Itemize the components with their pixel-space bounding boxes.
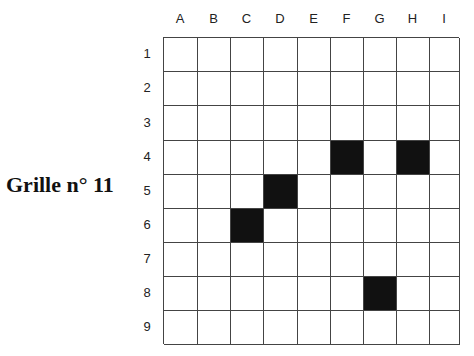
cell-c4[interactable] [231, 141, 264, 175]
cell-a9[interactable] [164, 311, 198, 345]
row-label-1: 1 [140, 46, 154, 61]
cell-c5[interactable] [231, 175, 264, 209]
cell-g2[interactable] [364, 72, 397, 106]
cell-g3[interactable] [364, 106, 397, 141]
column-label-g: G [370, 11, 390, 26]
cell-a4[interactable] [164, 141, 198, 175]
row-label-7: 7 [140, 251, 154, 266]
cell-b8[interactable] [198, 277, 231, 311]
cell-a2[interactable] [164, 72, 198, 106]
cell-e4[interactable] [298, 141, 331, 175]
cell-i9[interactable] [430, 311, 460, 345]
column-label-c: C [237, 11, 257, 26]
grid [163, 37, 459, 344]
cell-c8[interactable] [231, 277, 264, 311]
cell-a8[interactable] [164, 277, 198, 311]
cell-g9[interactable] [364, 311, 397, 345]
cell-a3[interactable] [164, 106, 198, 141]
cell-e2[interactable] [298, 72, 331, 106]
row-label-2: 2 [140, 80, 154, 95]
cell-d9[interactable] [264, 311, 298, 345]
cell-c1[interactable] [231, 38, 264, 72]
cell-g4[interactable] [364, 141, 397, 175]
cell-a6[interactable] [164, 209, 198, 243]
cell-h7[interactable] [397, 243, 430, 277]
row-label-3: 3 [140, 115, 154, 130]
cell-g5[interactable] [364, 175, 397, 209]
cell-i3[interactable] [430, 106, 460, 141]
cell-d5[interactable] [264, 175, 298, 209]
cell-b9[interactable] [198, 311, 231, 345]
cell-f9[interactable] [331, 311, 364, 345]
cell-e8[interactable] [298, 277, 331, 311]
cell-f3[interactable] [331, 106, 364, 141]
cell-i8[interactable] [430, 277, 460, 311]
cell-a1[interactable] [164, 38, 198, 72]
cell-c6[interactable] [231, 209, 264, 243]
cell-d2[interactable] [264, 72, 298, 106]
cell-e7[interactable] [298, 243, 331, 277]
row-label-9: 9 [140, 319, 154, 334]
cell-h1[interactable] [397, 38, 430, 72]
cell-d4[interactable] [264, 141, 298, 175]
cell-c3[interactable] [231, 106, 264, 141]
row-label-8: 8 [140, 285, 154, 300]
cell-c7[interactable] [231, 243, 264, 277]
cell-b4[interactable] [198, 141, 231, 175]
row-label-4: 4 [140, 149, 154, 164]
cell-d7[interactable] [264, 243, 298, 277]
cell-f6[interactable] [331, 209, 364, 243]
cell-a7[interactable] [164, 243, 198, 277]
cell-d3[interactable] [264, 106, 298, 141]
cell-a5[interactable] [164, 175, 198, 209]
cell-b3[interactable] [198, 106, 231, 141]
cell-d6[interactable] [264, 209, 298, 243]
cell-h6[interactable] [397, 209, 430, 243]
cell-g7[interactable] [364, 243, 397, 277]
cell-e3[interactable] [298, 106, 331, 141]
column-label-e: E [304, 11, 324, 26]
grid-title: Grille n° 11 [6, 172, 114, 198]
cell-c2[interactable] [231, 72, 264, 106]
cell-e9[interactable] [298, 311, 331, 345]
row-label-5: 5 [140, 183, 154, 198]
cell-h4[interactable] [397, 141, 430, 175]
cell-h5[interactable] [397, 175, 430, 209]
cell-h8[interactable] [397, 277, 430, 311]
cell-e6[interactable] [298, 209, 331, 243]
cell-d1[interactable] [264, 38, 298, 72]
cell-h2[interactable] [397, 72, 430, 106]
column-label-h: H [403, 11, 423, 26]
cell-f5[interactable] [331, 175, 364, 209]
cell-i1[interactable] [430, 38, 460, 72]
cell-d8[interactable] [264, 277, 298, 311]
cell-f7[interactable] [331, 243, 364, 277]
cell-g1[interactable] [364, 38, 397, 72]
cell-h3[interactable] [397, 106, 430, 141]
cell-f2[interactable] [331, 72, 364, 106]
cell-i6[interactable] [430, 209, 460, 243]
cell-f8[interactable] [331, 277, 364, 311]
cell-f1[interactable] [331, 38, 364, 72]
cell-i4[interactable] [430, 141, 460, 175]
cell-g8[interactable] [364, 277, 397, 311]
column-label-f: F [337, 11, 357, 26]
cell-e5[interactable] [298, 175, 331, 209]
column-label-i: I [434, 11, 454, 26]
cell-b7[interactable] [198, 243, 231, 277]
cell-b1[interactable] [198, 38, 231, 72]
cell-b6[interactable] [198, 209, 231, 243]
column-label-d: D [270, 11, 290, 26]
cell-i5[interactable] [430, 175, 460, 209]
cell-h9[interactable] [397, 311, 430, 345]
cell-f4[interactable] [331, 141, 364, 175]
column-label-a: A [170, 11, 190, 26]
cell-b5[interactable] [198, 175, 231, 209]
cell-i2[interactable] [430, 72, 460, 106]
row-label-6: 6 [140, 217, 154, 232]
cell-e1[interactable] [298, 38, 331, 72]
cell-g6[interactable] [364, 209, 397, 243]
cell-c9[interactable] [231, 311, 264, 345]
cell-b2[interactable] [198, 72, 231, 106]
cell-i7[interactable] [430, 243, 460, 277]
